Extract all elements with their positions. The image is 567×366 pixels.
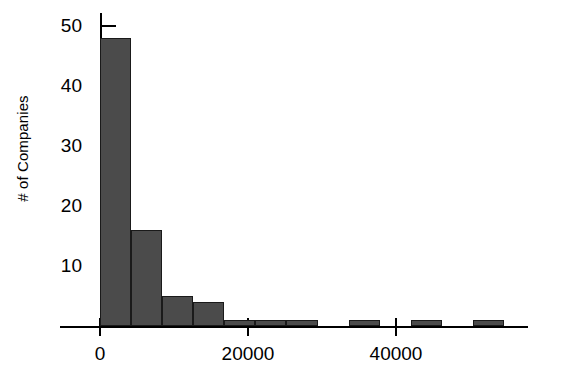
histogram-bar [286,320,317,326]
histogram-bar [224,320,255,326]
y-tick-label: 10 [48,256,82,275]
y-tick-label: 20 [48,196,82,215]
y-tick-label: 30 [48,136,82,155]
x-tick-mark [395,318,397,336]
x-tick-label: 40000 [336,344,456,363]
histogram-bar [349,320,380,326]
x-axis-line [60,326,528,328]
histogram-bar [411,320,442,326]
histogram-bar [100,38,131,326]
histogram-bar [131,230,162,326]
x-tick-label: 0 [40,344,160,363]
histogram-bar [162,296,193,326]
y-tick-label: 40 [48,76,82,95]
y-axis-label: # of Companies [14,69,31,229]
histogram-bar [473,320,504,326]
x-tick-label: 20000 [188,344,308,363]
y-tick-mark [100,25,116,27]
histogram-bar [255,320,286,326]
y-tick-label: 50 [48,16,82,35]
histogram-figure: # of Companies 1020304050 02000040000 [0,0,567,366]
histogram-bar [193,302,224,326]
